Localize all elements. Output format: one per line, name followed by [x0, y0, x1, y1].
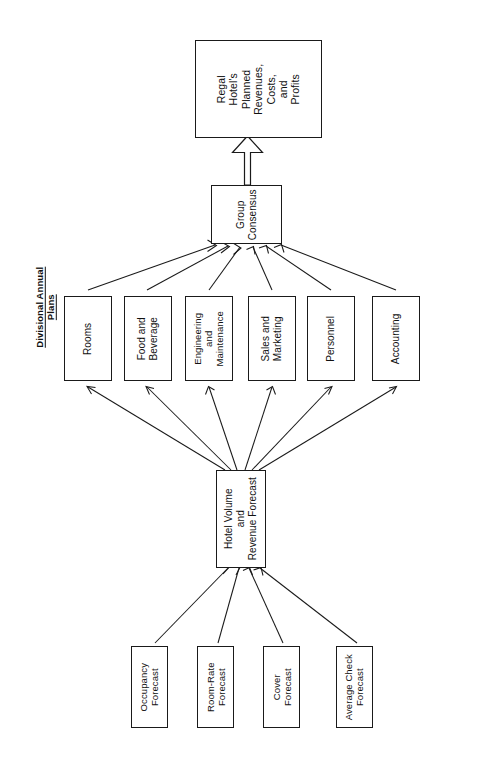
arrows-forecasts-to-hub	[155, 565, 357, 644]
box-occupancy-forecast[interactable]: Occupancy Forecast	[131, 646, 168, 728]
box-regal-hotels-planned-revenues-costs-and-profits[interactable]: Regal Hotel's Planned Revenues, Costs, a…	[195, 40, 322, 138]
box-food-and-beverage[interactable]: Food and Beverage	[124, 296, 172, 381]
box-group-consensus[interactable]: Group Consensus	[211, 185, 282, 244]
section-label-line2: Plans	[45, 294, 56, 320]
box-room-rate-forecast[interactable]: Room-Rate Forecast	[197, 646, 234, 728]
box-average-check-forecast[interactable]: Average Check Forecast	[336, 646, 373, 728]
box-label: Personnel	[325, 316, 337, 362]
box-label: Engineering and Maintenance	[192, 311, 226, 367]
box-accounting[interactable]: Accounting	[372, 296, 420, 381]
box-label: Regal Hotel's Planned Revenues, Costs, a…	[215, 63, 302, 114]
box-sales-and-marketing[interactable]: Sales and Marketing	[248, 296, 296, 381]
box-label: Room-Rate Forecast	[204, 662, 226, 711]
box-cover-forecast[interactable]: Cover Forecast	[263, 646, 300, 728]
box-engineering-and-maintenance[interactable]: Engineering and Maintenance	[185, 296, 233, 381]
arrows-hub-to-divisions	[87, 387, 397, 471]
arrows-divisions-to-consensus	[88, 240, 396, 290]
box-label: Occupancy Forecast	[138, 663, 160, 711]
box-label: Cover Forecast	[270, 668, 292, 706]
section-label-divisional-annual-plans: Divisional Annual Plans	[22, 248, 68, 368]
box-label: Sales and Marketing	[260, 316, 284, 361]
box-hotel-volume-and-revenue-forecast[interactable]: Hotel Volume and Revenue Forecast	[216, 470, 266, 568]
box-label: Hotel Volume and Revenue Forecast	[223, 477, 258, 560]
box-personnel[interactable]: Personnel	[307, 296, 355, 381]
section-label-line1: Divisional Annual	[34, 267, 45, 348]
arrow-consensus-to-outcome	[233, 136, 263, 185]
box-label: Rooms	[82, 322, 94, 354]
box-rooms[interactable]: Rooms	[64, 296, 112, 381]
box-label: Accounting	[390, 313, 402, 363]
box-label: Food and Beverage	[136, 317, 160, 361]
box-label: Average Check Forecast	[343, 654, 365, 720]
box-label: Group Consensus	[235, 189, 259, 240]
diagram-canvas: Regal Hotel's Planned Revenues, Costs, a…	[0, 0, 483, 772]
